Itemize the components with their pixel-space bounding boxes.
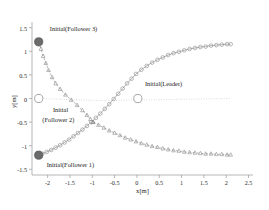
x-tick-label: -2 <box>45 179 50 186</box>
initial-position-marker <box>35 38 43 46</box>
x-tick-label: 1.5 <box>200 179 208 186</box>
y-tick-label: -0.5 <box>17 119 27 126</box>
x-tick-label: -0.5 <box>110 179 120 186</box>
y-tick-label: 0 <box>24 95 27 102</box>
figure-container: -2-1.5-1-0.500.511.522.51.510.50-0.5-1-1… <box>0 0 269 210</box>
data-point-triangle <box>39 47 43 50</box>
x-tick-label: 0 <box>135 179 138 186</box>
initial-position-marker <box>134 94 142 102</box>
y-tick-label: -1.5 <box>17 166 27 173</box>
plot-annotation: (Follower 2) <box>42 116 74 123</box>
x-tick-label: 2.5 <box>245 179 253 186</box>
x-tick-label: -1.5 <box>65 179 75 186</box>
data-point-triangle <box>50 75 54 78</box>
y-tick-label: 1 <box>24 48 27 55</box>
initial-position-marker <box>35 94 43 102</box>
data-point-triangle <box>54 81 58 84</box>
data-point-triangle <box>220 152 224 155</box>
y-tick-label: 0.5 <box>19 71 27 78</box>
plot-annotation: Initial(Follower 1) <box>47 161 94 168</box>
x-tick-label: 2 <box>225 179 228 186</box>
plot-annotation: Initial <box>53 106 68 113</box>
initial-position-marker <box>35 151 43 159</box>
x-tick-label: -1 <box>90 179 95 186</box>
data-point-triangle <box>145 143 149 146</box>
x-tick-label: 0.5 <box>155 179 163 186</box>
data-point-triangle <box>182 150 186 153</box>
plot-annotation: Initial(Follower 3) <box>50 25 97 32</box>
y-tick-label: 1.5 <box>19 24 27 31</box>
data-point-triangle <box>102 126 106 129</box>
plot-annotation: Initial(Leader) <box>145 80 182 87</box>
x-tick-label: 1 <box>180 179 183 186</box>
y-tick-label: -1 <box>22 142 27 149</box>
y-axis-label: y[m] <box>10 95 17 108</box>
x-axis-label: x[m] <box>136 187 149 194</box>
